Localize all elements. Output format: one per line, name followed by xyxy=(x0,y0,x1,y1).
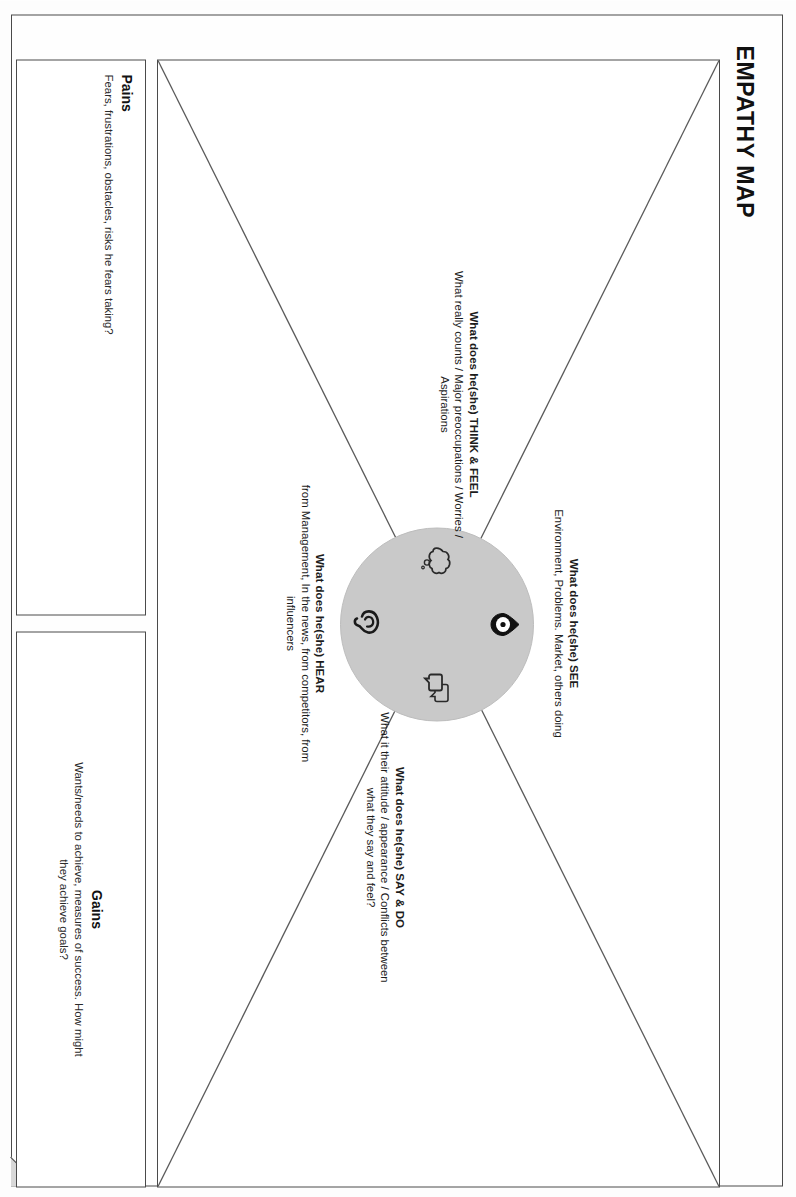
panel-gains: Gains Wants/needs to achieve, measures o… xyxy=(16,631,146,1187)
quadrant-see-body: Environment, Problems. Market, others do… xyxy=(552,493,567,753)
empathy-quadrant-canvas: What does he(she) SEE Environment, Probl… xyxy=(157,59,720,1187)
panel-pains: Pains Fears, frustrations, obstacles, ri… xyxy=(16,59,146,615)
quadrant-think-feel-heading: What does he(she) THINK & FEEL xyxy=(467,264,482,544)
page-title: EMPATHY MAP xyxy=(731,45,758,218)
eye-icon xyxy=(486,604,526,644)
panel-pains-title: Pains xyxy=(119,74,135,600)
panel-gains-description: Wants/needs to achieve, measures of succ… xyxy=(57,759,86,1059)
quadrant-think-feel-body: What really counts / Major preoccupation… xyxy=(438,264,467,544)
quadrant-hear: What does he(she) HEAR from Management, … xyxy=(284,473,328,773)
quadrant-say-do-body: What it their attitude / appearance / Co… xyxy=(364,704,393,990)
poster-sheet: EMPATHY MAP xyxy=(11,14,783,1186)
panel-pains-description: Fears, frustrations, obstacles, risks he… xyxy=(102,74,117,374)
speech-bubbles-icon xyxy=(418,668,458,708)
quadrant-hear-heading: What does he(she) HEAR xyxy=(313,473,328,773)
persona-circle xyxy=(341,527,535,721)
panel-gains-title: Gains xyxy=(89,890,105,929)
quadrant-see-heading: What does he(she) SEE xyxy=(567,493,582,753)
thought-cloud-icon xyxy=(418,540,458,580)
quadrant-say-do-heading: What does he(she) SAY & DO xyxy=(393,704,408,990)
poster-canvas: EMPATHY MAP xyxy=(0,0,796,1197)
pains-gains-strip: Pains Fears, frustrations, obstacles, ri… xyxy=(16,59,146,1187)
quadrant-say-do: What does he(she) SAY & DO What it their… xyxy=(364,704,408,990)
quadrant-think-feel: What does he(she) THINK & FEEL What real… xyxy=(438,264,482,544)
ear-icon xyxy=(348,604,388,644)
quadrant-see: What does he(she) SEE Environment, Probl… xyxy=(552,493,581,753)
poster-stage: EMPATHY MAP xyxy=(0,0,796,1197)
quadrant-hear-body: from Management, In the news, from compe… xyxy=(284,473,313,773)
